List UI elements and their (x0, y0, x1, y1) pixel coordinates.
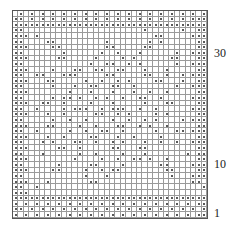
row-number-label: 10 (214, 157, 226, 172)
grid-cells (13, 11, 207, 218)
pattern-grid (12, 10, 208, 219)
row-number-label: 30 (214, 46, 226, 61)
filled-cell-dot (202, 212, 207, 218)
row-number-label: 1 (214, 206, 220, 221)
